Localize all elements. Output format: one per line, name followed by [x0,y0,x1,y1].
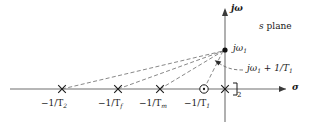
tick-label-minus-1-over-Tm-main: −1/T [139,98,161,108]
imaginary-axis-label: jω [231,4,243,13]
tick-label-minus-1-over-Tm-sub: m [161,102,167,109]
vector-magnitude-label: jω1 + 1/T1 [247,64,293,73]
evaluation-point-label: jω1 [233,44,247,53]
vector-label-tail: + 1/T [261,63,289,73]
tick-label-minus-1-over-Tf-sub: f [120,102,122,109]
zero-marker-minus-1-over-T1 [200,85,208,93]
tick-label-minus-1-over-Tf-main: −1/T [98,98,120,108]
tick-label-minus-1-over-T1-sub: 1 [206,102,210,109]
real-axis-label: σ [292,83,299,92]
vector-from-minus-1-over-T1 [204,51,223,89]
tick-label-minus-1-over-T2-main: −1/T [41,98,63,108]
imaginary-axis [222,8,228,122]
evaluation-point-label-main: jω [233,43,243,53]
vector-from-minus-1-over-T2 [62,51,223,89]
evaluation-point-marker [222,47,227,52]
real-axis [10,86,286,92]
vector-label-main: jω [247,63,257,73]
tick-label-minus-1-over-T1-main: −1/T [184,98,206,108]
tick-label-minus-1-over-Tf: −1/Tf [98,99,123,108]
s-plane-label-rest: plane [264,21,292,31]
s-plane-label: s plane [259,22,292,31]
vector-label-leader [215,60,243,70]
vector-label-sub2: 1 [289,67,293,74]
multiplicity-value-label: 2 [237,92,241,99]
tick-label-minus-1-over-Tm: −1/Tm [139,99,167,108]
vector-lines [62,51,223,89]
s-plane-figure: s plane jω σ jω1 jω1 + 1/T1 2 −1/T2 −1/T… [0,0,320,128]
vector-label-sub1: 1 [257,67,261,74]
tick-label-minus-1-over-T1: −1/T1 [184,99,210,108]
evaluation-point-label-sub: 1 [243,47,247,54]
tick-label-minus-1-over-T2-sub: 2 [63,102,67,109]
tick-label-minus-1-over-T2: −1/T2 [41,99,67,108]
